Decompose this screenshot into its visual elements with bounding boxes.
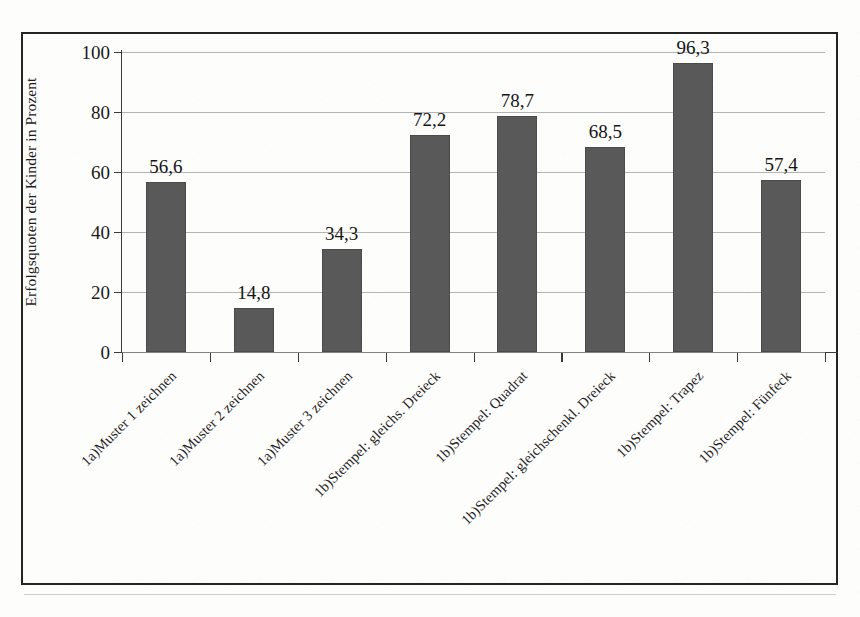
x-tick-mark — [122, 353, 123, 362]
x-tick-mark — [210, 353, 211, 362]
bar-value-label: 72,2 — [385, 110, 475, 129]
bar — [234, 308, 274, 352]
y-tick-label: 20 — [58, 283, 110, 302]
bar — [673, 63, 713, 352]
x-tick-mark — [474, 353, 475, 362]
bar — [410, 135, 450, 352]
bar — [761, 180, 801, 352]
bar — [585, 147, 625, 353]
y-tick-mark — [114, 292, 122, 293]
bar-value-label: 57,4 — [736, 155, 826, 174]
bar — [146, 182, 186, 352]
x-tick-mark — [561, 353, 562, 362]
x-tick-mark — [298, 353, 299, 362]
y-tick-mark — [114, 112, 122, 113]
bar — [497, 116, 537, 352]
bar-value-label: 96,3 — [648, 38, 738, 57]
bar-value-label: 34,3 — [297, 224, 387, 243]
y-tick-label: 0 — [58, 343, 110, 362]
x-tick-mark — [825, 353, 826, 362]
y-axis-title: Erfolgsquoten der Kinder in Prozent — [20, 32, 42, 352]
y-tick-label: 60 — [58, 163, 110, 182]
y-tick-mark — [114, 232, 122, 233]
y-tick-label: 100 — [58, 43, 110, 62]
y-tick-label: 40 — [58, 223, 110, 242]
gridline — [122, 172, 825, 173]
scanned-page: Erfolgsquoten der Kinder in Prozent 0204… — [0, 0, 860, 617]
gridline — [122, 352, 825, 353]
page-rule — [24, 594, 836, 595]
y-tick-mark — [114, 52, 122, 53]
x-tick-mark — [386, 353, 387, 362]
bar-value-label: 56,6 — [121, 157, 211, 176]
bar — [322, 249, 362, 352]
gridline — [122, 232, 825, 233]
caption-cut-off-text — [36, 601, 836, 615]
bar-value-label: 68,5 — [560, 122, 650, 141]
bar-value-label: 78,7 — [472, 91, 562, 110]
x-tick-mark — [649, 353, 650, 362]
y-tick-mark — [114, 352, 122, 353]
x-tick-mark — [737, 353, 738, 362]
bar-value-label: 14,8 — [209, 283, 299, 302]
y-tick-label: 80 — [58, 103, 110, 122]
